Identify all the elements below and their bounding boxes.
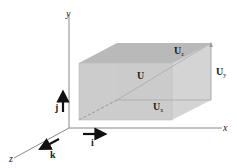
unit-i-label: i xyxy=(91,137,94,148)
component-box xyxy=(79,42,213,120)
vector-diagram: y x z j i k U Uz Uy Ux xyxy=(0,0,237,168)
unit-j-label: j xyxy=(54,102,58,113)
x-axis-label: x xyxy=(222,122,228,133)
y-axis-label: y xyxy=(65,8,71,19)
z-axis xyxy=(14,128,69,158)
vector-U-label: U xyxy=(137,70,144,81)
unit-k-label: k xyxy=(50,149,56,160)
component-Uy-label: Uy xyxy=(216,66,226,78)
z-axis-label: z xyxy=(8,153,13,164)
